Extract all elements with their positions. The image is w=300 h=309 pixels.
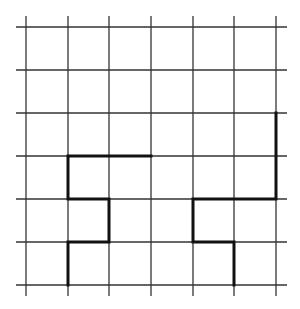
grid-diagram <box>0 0 300 309</box>
